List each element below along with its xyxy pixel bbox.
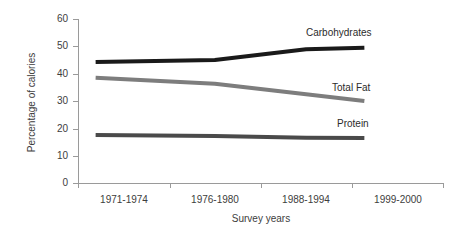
series-label-carbohydrates: Carbohydrates xyxy=(306,27,372,38)
series-line-total-fat xyxy=(96,78,365,101)
line-chart: Percentage of calories 60 50 40 30 20 10… xyxy=(0,0,464,243)
series-line-protein xyxy=(96,135,365,138)
series-line-carbohydrates xyxy=(96,48,365,62)
series-label-total-fat: Total Fat xyxy=(332,82,370,93)
plot-area xyxy=(0,0,464,243)
series-label-protein: Protein xyxy=(337,118,369,129)
